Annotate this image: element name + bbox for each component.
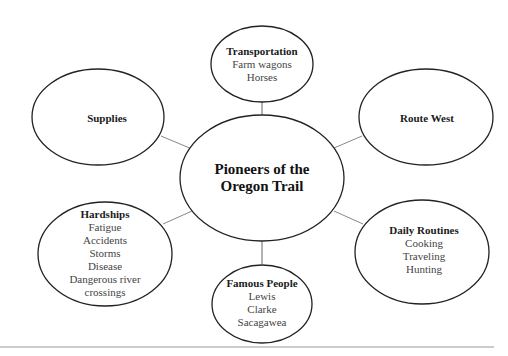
connector-route-west xyxy=(334,136,362,148)
node-item: Dangerous river xyxy=(69,273,140,286)
node-title: Supplies xyxy=(87,112,127,125)
node-item: Cooking xyxy=(389,237,458,250)
node-item: Farm wagons xyxy=(226,58,297,71)
node-title: Route West xyxy=(400,112,454,125)
node-item: Disease xyxy=(69,260,140,273)
connector-daily-routines xyxy=(334,211,363,224)
node-title: Hardships xyxy=(69,208,140,221)
node-title: Transportation xyxy=(226,45,297,58)
center-title-line2: Oregon Trail xyxy=(215,178,310,195)
node-item: Accidents xyxy=(69,234,140,247)
node-title: Famous People xyxy=(226,277,297,290)
node-famous-people: Famous People Lewis Clarke Sacagawea xyxy=(226,277,297,329)
node-supplies: Supplies xyxy=(87,112,127,125)
node-item: Traveling xyxy=(389,250,458,263)
node-item: Clarke xyxy=(226,303,297,316)
node-item: Lewis xyxy=(226,290,297,303)
node-item: Horses xyxy=(226,71,297,84)
node-title: Daily Routines xyxy=(389,224,458,237)
connector-hardships xyxy=(163,211,192,224)
center-title-line1: Pioneers of the xyxy=(215,161,310,178)
connector-supplies xyxy=(161,136,192,149)
center-label: Pioneers of the Oregon Trail xyxy=(215,161,310,195)
node-route-west: Route West xyxy=(400,112,454,125)
node-item: crossings xyxy=(69,286,140,299)
node-item: Hunting xyxy=(389,263,458,276)
node-item: Sacagawea xyxy=(226,316,297,329)
node-item: Fatigue xyxy=(69,221,140,234)
node-transportation: Transportation Farm wagons Horses xyxy=(226,45,297,84)
node-hardships: Hardships Fatigue Accidents Storms Disea… xyxy=(69,208,140,299)
node-daily-routines: Daily Routines Cooking Traveling Hunting xyxy=(389,224,458,276)
node-item: Storms xyxy=(69,247,140,260)
